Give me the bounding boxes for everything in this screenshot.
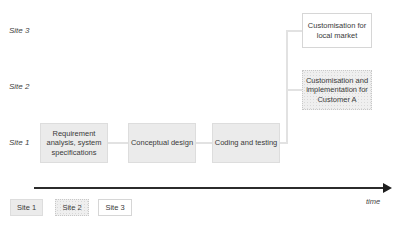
box-requirement-analysis-text: Requirement analysis, system specificati…: [41, 129, 107, 158]
legend-site-1-label: Site 1: [17, 203, 36, 213]
box-coding-testing-text: Coding and testing: [215, 138, 278, 148]
time-axis: [34, 187, 384, 189]
box-requirement-analysis: Requirement analysis, system specificati…: [40, 123, 108, 163]
connector-to-local-market: [286, 30, 302, 32]
time-arrow-icon: [383, 183, 392, 193]
legend-site-3: Site 3: [98, 199, 132, 216]
connector-to-customer-a: [286, 89, 302, 91]
connector-req-to-conceptual: [108, 142, 128, 144]
connector-conceptual-to-coding: [196, 142, 212, 144]
connector-vertical-branch: [286, 30, 288, 144]
legend-site-1: Site 1: [10, 199, 43, 216]
legend-site-2: Site 2: [55, 199, 89, 216]
time-axis-label: time: [366, 197, 380, 206]
box-customisation-customer-a: Customisation and implementation for Cus…: [302, 70, 372, 110]
legend-site-3-label: Site 3: [105, 203, 124, 213]
box-customisation-customer-a-text: Customisation and implementation for Cus…: [303, 76, 371, 105]
box-customisation-local-market-text: Customisation for local market: [303, 21, 371, 40]
site-3-label: Site 3: [9, 26, 29, 35]
site-2-label: Site 2: [9, 82, 29, 91]
box-conceptual-design-text: Conceptual design: [131, 138, 193, 148]
box-conceptual-design: Conceptual design: [128, 123, 196, 163]
site-1-label: Site 1: [9, 138, 29, 147]
box-coding-testing: Coding and testing: [212, 123, 280, 163]
legend-site-2-label: Site 2: [62, 203, 81, 213]
box-customisation-local-market: Customisation for local market: [302, 13, 372, 48]
